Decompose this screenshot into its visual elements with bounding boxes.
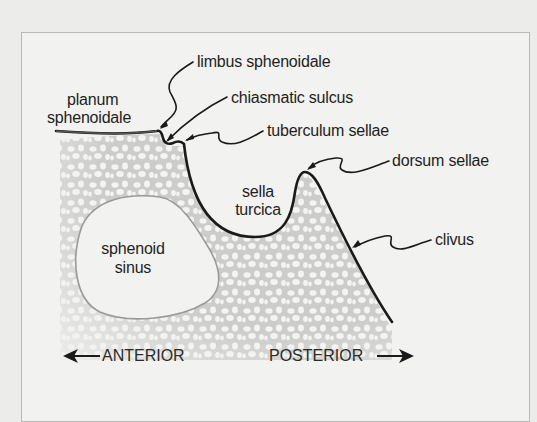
label-anterior: ANTERIOR [102,347,185,365]
label-posterior: POSTERIOR [269,347,363,365]
label-chiasmatic-sulcus: chiasmatic sulcus [231,89,353,107]
label-limbus-sphenoidale: limbus sphenoidale [197,53,330,71]
label-sinus-line1: sphenoid [90,240,176,258]
label-planum-line2: sphenoidale [47,109,131,127]
label-sinus-line2: sinus [100,259,166,277]
label-sella-line2: turcica [224,201,292,219]
arrowhead-limbus-icon [160,121,168,129]
label-sella-line1: sella [228,183,288,201]
label-planum-line1: planum [67,91,118,109]
label-clivus: clivus [435,231,474,249]
label-dorsum-sellae: dorsum sellae [392,152,489,170]
arrowhead-tuberculum-icon [185,134,194,141]
label-tuberculum-sellae: tuberculum sellae [267,122,389,140]
